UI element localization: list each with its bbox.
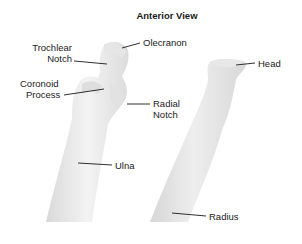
label-trochlear-notch-line2: Notch xyxy=(20,53,72,64)
diagram-title: Anterior View xyxy=(0,10,302,21)
label-radius: Radius xyxy=(209,211,239,222)
label-coronoid-process-line1: Coronoid xyxy=(20,78,60,89)
label-olecranon: Olecranon xyxy=(143,37,187,48)
label-coronoid-process: Coronoid Process xyxy=(20,78,60,100)
ulna-bone xyxy=(46,42,129,222)
label-head: Head xyxy=(258,58,281,69)
label-radial-notch: Radial Notch xyxy=(153,98,180,120)
label-radial-notch-line1: Radial xyxy=(153,98,180,109)
label-trochlear-notch-line1: Trochlear xyxy=(20,42,72,53)
label-ulna: Ulna xyxy=(115,160,135,171)
label-trochlear-notch: Trochlear Notch xyxy=(20,42,72,64)
label-coronoid-process-line2: Process xyxy=(20,89,60,100)
radius-bone xyxy=(150,59,246,222)
label-radial-notch-line2: Notch xyxy=(153,109,180,120)
